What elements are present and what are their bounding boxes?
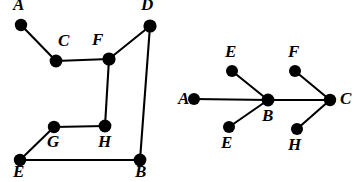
node-label-b: B — [262, 107, 273, 124]
graph-edge — [54, 126, 105, 127]
graph-node-a — [15, 19, 27, 31]
left-graph-edges — [20, 25, 150, 160]
graph-edge — [194, 99, 268, 100]
graph-node-c — [324, 94, 336, 106]
node-label-f: F — [288, 43, 299, 60]
node-label-e: E — [13, 163, 24, 180]
node-label-c: C — [340, 90, 351, 107]
node-label-d: D — [141, 0, 153, 13]
node-label-a: A — [178, 90, 189, 107]
node-label-e: E — [221, 134, 232, 151]
graph-node-f — [102, 52, 115, 65]
node-label-a: A — [13, 0, 24, 13]
graph-node-h — [99, 120, 112, 133]
graph-edge — [105, 59, 109, 126]
graph-edge — [21, 25, 56, 61]
graph-node-a — [188, 93, 200, 105]
graph-node-e — [223, 121, 235, 133]
node-label-e: E — [225, 43, 236, 60]
graph-edge — [56, 59, 109, 61]
graph-edge — [140, 26, 150, 160]
graph-edge — [232, 71, 268, 100]
graph-node-e — [226, 65, 238, 77]
graph-node-c — [50, 55, 63, 68]
node-label-c: C — [58, 32, 69, 49]
graph-node-f — [289, 65, 301, 77]
graph-node-b — [262, 94, 275, 107]
node-label-h: H — [288, 136, 301, 153]
graph-node-h — [291, 123, 303, 135]
graph-vector-layer — [0, 0, 354, 182]
node-label-g: G — [47, 133, 59, 150]
graph-edge — [295, 71, 330, 100]
graph-edge — [109, 26, 150, 59]
node-label-h: H — [98, 133, 111, 150]
diagram-canvas: ADCFGHEBAEEBFHC — [0, 0, 354, 182]
node-label-b: B — [135, 163, 146, 180]
graph-edge — [297, 100, 330, 129]
graph-node-d — [143, 19, 156, 32]
node-label-f: F — [92, 31, 103, 48]
